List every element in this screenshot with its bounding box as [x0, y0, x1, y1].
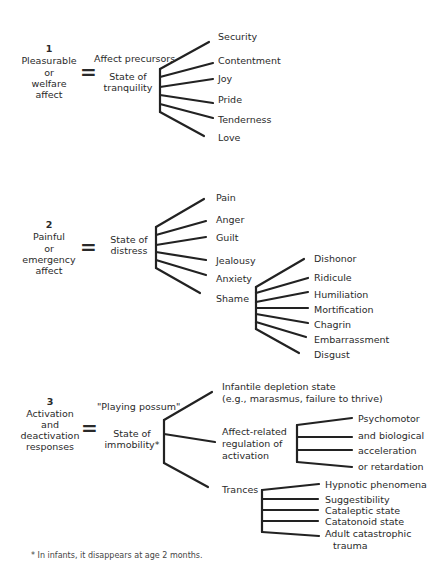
branch-security: Security	[218, 31, 257, 42]
branch-affect-related: activation	[222, 450, 269, 461]
shame-embarrassment: Embarrassment	[314, 334, 389, 345]
branch-jealousy: Jealousy	[216, 255, 256, 266]
shame-disgust: Disgust	[314, 349, 350, 360]
category-line: deactivation	[12, 430, 88, 441]
equals-sign: =	[81, 418, 98, 438]
branch-anxiety: Anxiety	[216, 273, 252, 284]
footnote: * In infants, it disappears at age 2 mon…	[31, 551, 203, 560]
equals-sign: =	[80, 237, 97, 257]
trance-catatonoid: Catatonoid state	[325, 516, 404, 527]
category-line: Pleasurable	[14, 55, 84, 66]
activation-retardation: or retardation	[358, 461, 424, 472]
state-label: State of	[100, 71, 156, 82]
category-line: responses	[12, 441, 88, 452]
branch-guilt: Guilt	[216, 232, 238, 243]
alias-label: "Playing possum"	[97, 401, 180, 412]
category-line: welfare	[14, 78, 84, 89]
section-number: 3	[39, 396, 61, 407]
branch-trances: Trances	[222, 484, 258, 495]
section-number: 1	[38, 43, 60, 54]
branch-anger: Anger	[216, 214, 244, 225]
branch-contentment: Contentment	[218, 55, 281, 66]
shame-ridicule: Ridicule	[314, 272, 352, 283]
branch-infantile-depletion: Infantile depletion state	[222, 381, 336, 392]
activation-acceleration: acceleration	[358, 445, 417, 456]
state-label: tranquility	[100, 82, 156, 93]
category-line: emergency	[14, 254, 84, 265]
activation-biological: and biological	[358, 430, 424, 441]
state-label: distress	[106, 245, 152, 256]
category-line: affect	[14, 265, 84, 276]
state-label: State of	[106, 234, 152, 245]
branch-shame: Shame	[216, 293, 249, 304]
category-line: Activation	[12, 408, 88, 419]
activation-psychomotor: Psychomotor	[358, 413, 420, 424]
state-label: immobility*	[104, 439, 160, 450]
branch-pride: Pride	[218, 94, 242, 105]
category-line: or	[14, 243, 84, 254]
shame-humiliation: Humiliation	[314, 289, 368, 300]
branch-affect-related: regulation of	[222, 438, 282, 449]
branch-infantile-examples: (e.g., marasmus, failure to thrive)	[222, 393, 383, 404]
category-line: and	[12, 419, 88, 430]
shame-mortification: Mortification	[314, 304, 374, 315]
branch-affect-related: Affect-related	[222, 426, 287, 437]
category-line: affect	[14, 89, 84, 100]
trance-adult-catastrophic: Adult catastrophic	[325, 528, 411, 539]
branch-joy: Joy	[218, 73, 232, 84]
trance-suggestibility: Suggestibility	[325, 494, 390, 505]
trance-adult-catastrophic-trauma: trauma	[333, 540, 368, 551]
equals-sign: =	[80, 62, 97, 82]
category-line: or	[14, 67, 84, 78]
branch-tenderness: Tenderness	[218, 114, 271, 125]
trance-hypnotic: Hypnotic phenomena	[325, 479, 427, 490]
branch-love: Love	[218, 132, 240, 143]
state-label: State of	[104, 428, 160, 439]
section-number: 2	[38, 219, 60, 230]
shame-dishonor: Dishonor	[314, 253, 356, 264]
trance-cataleptic: Cataleptic state	[325, 505, 400, 516]
shame-chagrin: Chagrin	[314, 319, 351, 330]
branch-pain: Pain	[216, 192, 236, 203]
precursor-label: Affect precursors	[94, 53, 175, 64]
category-line: Painful	[14, 231, 84, 242]
